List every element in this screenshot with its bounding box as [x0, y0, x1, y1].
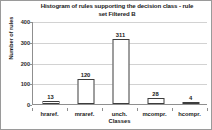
- bar-value-label: 28: [152, 91, 158, 97]
- bar[interactable]: [77, 79, 94, 104]
- y-axis-tick-label: 300: [10, 40, 30, 46]
- bar-value-label: 4: [189, 95, 192, 101]
- bar-group: 120: [68, 22, 103, 104]
- bar-value-label: 13: [47, 94, 53, 100]
- y-axis-tick-label: 200: [10, 61, 30, 67]
- y-axis-tick-label: 0: [10, 102, 30, 108]
- x-axis-tick-mark: [102, 108, 103, 111]
- chart-title-line-1: Histogram of rules supporting the decisi…: [27, 2, 207, 10]
- x-axis-tick-label: unch.: [112, 111, 127, 117]
- x-axis-tick-mark: [207, 108, 208, 111]
- bar-group: 311: [103, 22, 138, 104]
- y-axis-tick-label: 100: [10, 81, 30, 87]
- bar[interactable]: [112, 39, 129, 104]
- y-axis-ticks: 0100200300400: [6, 22, 30, 105]
- bar-group: 4: [173, 22, 208, 104]
- x-axis-title: Classes: [32, 118, 207, 124]
- x-axis-tick-label: mcompr.: [142, 111, 166, 117]
- x-axis-tick-label: mraref.: [75, 111, 95, 117]
- plot-area: 13120311284: [32, 22, 207, 105]
- chart-title-line-2: set Filtered B: [27, 10, 207, 18]
- bar-value-label: 120: [81, 72, 91, 78]
- bar[interactable]: [42, 101, 59, 104]
- x-axis-tick-mark: [32, 108, 33, 111]
- x-axis-tick-mark: [67, 108, 68, 111]
- bar-chart: Histogram of rules supporting the decisi…: [0, 0, 212, 130]
- x-axis-tick-mark: [137, 108, 138, 111]
- chart-title: Histogram of rules supporting the decisi…: [27, 2, 207, 17]
- x-axis-ticks: hraref.mraref.unch.mcompr.hcompr.: [32, 108, 207, 117]
- bar[interactable]: [182, 102, 199, 104]
- bar-group: 28: [138, 22, 173, 104]
- bar-group: 13: [33, 22, 68, 104]
- y-axis-tick-mark: [30, 105, 32, 106]
- bar[interactable]: [147, 98, 164, 104]
- x-axis-tick-label: hcompr.: [178, 111, 201, 117]
- y-axis-tick-label: 400: [10, 19, 30, 25]
- bar-value-label: 311: [116, 32, 125, 38]
- x-axis-tick-mark: [172, 108, 173, 111]
- x-axis-tick-label: hraref.: [40, 111, 58, 117]
